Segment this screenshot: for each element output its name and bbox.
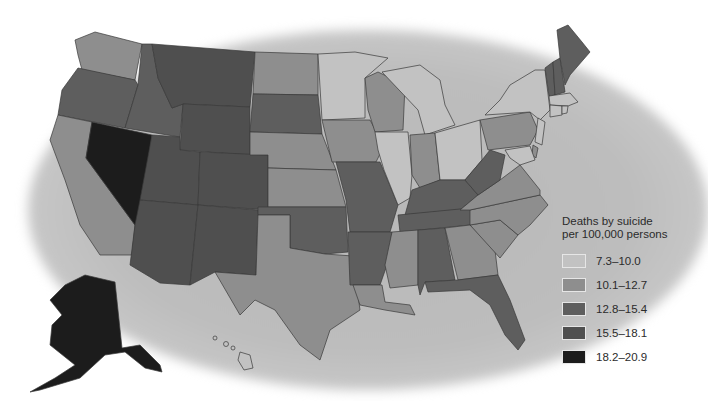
legend-title: Deaths by suicide per 100,000 persons (562, 215, 692, 241)
state-KS (268, 168, 346, 207)
state-SD (250, 94, 322, 134)
legend-item: 12.8–15.4 (562, 297, 692, 321)
state-MD (505, 146, 535, 165)
state-HI-islands-1 (213, 336, 217, 340)
state-MT (152, 44, 255, 108)
state-CO (198, 152, 268, 210)
legend-item: 10.1–12.7 (562, 273, 692, 297)
state-NJ (535, 118, 545, 145)
state-LA (353, 285, 415, 315)
legend-label: 7.3–10.0 (596, 255, 641, 267)
state-WY (180, 104, 250, 155)
state-NY (485, 70, 550, 120)
map-legend: Deaths by suicide per 100,000 persons 7.… (562, 215, 692, 369)
state-AK (30, 275, 162, 392)
state-HI (238, 352, 253, 370)
state-PA (480, 112, 538, 150)
legend-title-line2: per 100,000 persons (562, 228, 692, 241)
state-HI-islands-3 (231, 346, 235, 350)
legend-item: 15.5–18.1 (562, 321, 692, 345)
state-AZ (130, 200, 198, 285)
state-ND (253, 52, 318, 95)
state-FL (425, 275, 525, 350)
legend-label: 10.1–12.7 (596, 279, 647, 291)
legend-title-line1: Deaths by suicide (562, 215, 692, 228)
state-IN (410, 133, 440, 188)
legend-label: 18.2–20.9 (596, 351, 647, 363)
legend-swatch (562, 350, 586, 364)
legend-swatch (562, 326, 586, 340)
legend-item: 18.2–20.9 (562, 345, 692, 369)
legend-swatch (562, 278, 586, 292)
legend-swatch (562, 254, 586, 268)
state-HI-islands-2 (224, 342, 229, 347)
state-RI (562, 106, 568, 114)
legend-item: 7.3–10.0 (562, 249, 692, 273)
legend-label: 15.5–18.1 (596, 327, 647, 339)
state-CT (550, 105, 562, 117)
legend-label: 12.8–15.4 (596, 303, 647, 315)
legend-swatch (562, 302, 586, 316)
state-AR (348, 232, 392, 285)
